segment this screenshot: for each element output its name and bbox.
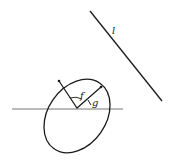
point-top-left bbox=[58, 80, 61, 83]
line-l-label: l bbox=[112, 25, 115, 36]
point-top-right bbox=[100, 86, 103, 89]
ellipse bbox=[30, 67, 123, 166]
label-f: f bbox=[79, 90, 86, 101]
label-g: g bbox=[92, 97, 98, 108]
diagram-canvas: l f g bbox=[0, 0, 176, 167]
angle-arc-g bbox=[88, 100, 91, 105]
